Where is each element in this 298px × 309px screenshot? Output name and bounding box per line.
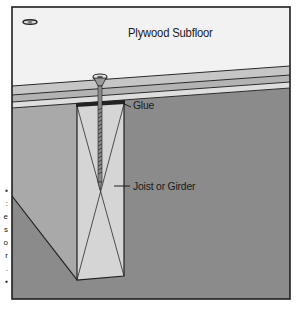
caption-char: .	[0, 262, 8, 275]
caption-fragments: ▪ : e s o r . ▪	[0, 184, 10, 288]
subfloor-label: Plywood Subfloor	[128, 26, 213, 40]
caption-char: ▪	[0, 184, 8, 197]
subfloor-joist-diagram	[0, 0, 298, 309]
glue-label: Glue	[133, 99, 154, 111]
washer-icon	[23, 20, 37, 25]
caption-char: ▪	[0, 275, 8, 288]
caption-char: s	[0, 223, 8, 236]
caption-char: e	[0, 210, 8, 223]
caption-char: :	[0, 197, 8, 210]
caption-char: o	[0, 236, 8, 249]
caption-char: r	[0, 249, 8, 262]
joist-label: Joist or Girder	[133, 180, 195, 192]
